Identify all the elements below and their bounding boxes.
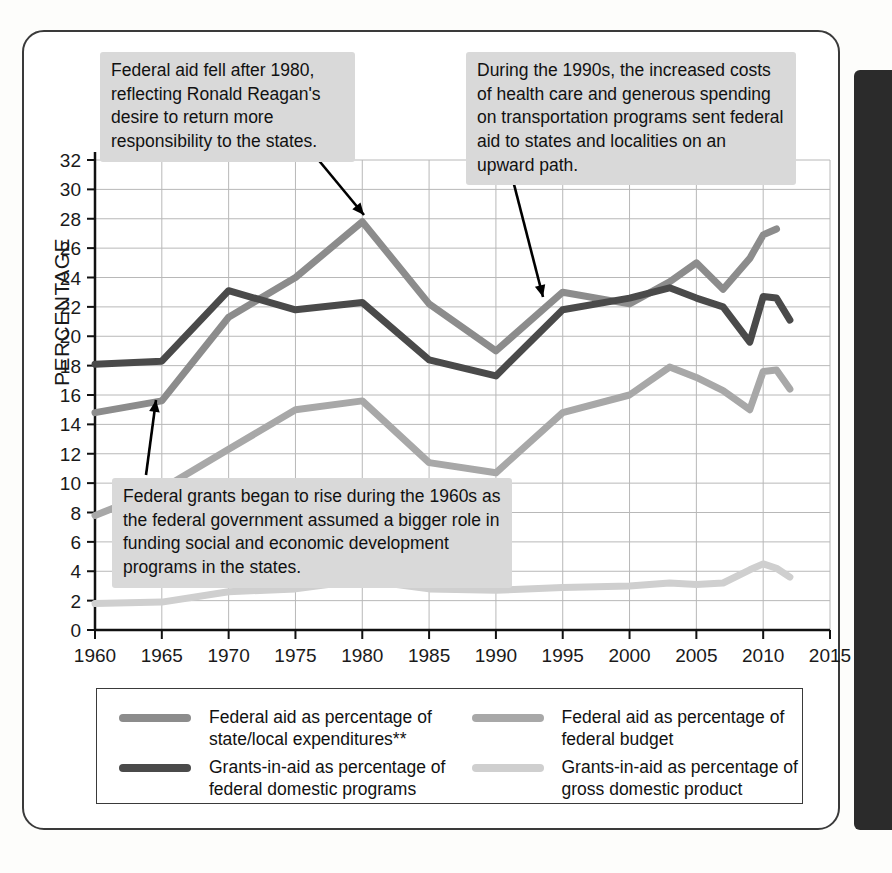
- y-axis-title: PERCENTAGE: [50, 192, 74, 432]
- x-tick-label: 1985: [408, 645, 450, 666]
- y-tick-label: 6: [70, 532, 81, 553]
- x-tick-label: 2015: [809, 645, 851, 666]
- legend-label-gdp: Grants-in-aid as percentage of gross dom…: [562, 756, 803, 801]
- annotation-nineties-note: During the 1990s, the increased costs of…: [466, 52, 796, 185]
- y-tick-label: 32: [60, 150, 81, 171]
- y-tick-label: 12: [60, 444, 81, 465]
- x-tick-label: 1995: [542, 645, 584, 666]
- chart-legend: Federal aid as percentage of state/local…: [96, 688, 803, 804]
- y-tick-label: 4: [70, 561, 81, 582]
- legend-label-state-local: Federal aid as percentage of state/local…: [209, 706, 450, 751]
- x-tick-label: 2005: [675, 645, 717, 666]
- legend-item-federal-budget: Federal aid as percentage of federal bud…: [450, 703, 803, 753]
- annotation-sixties-note: Federal grants began to rise during the …: [112, 478, 512, 588]
- y-tick-label: 8: [70, 503, 81, 524]
- x-tick-label: 1965: [141, 645, 183, 666]
- x-tick-label: 1980: [341, 645, 383, 666]
- series-line: [95, 288, 790, 376]
- legend-item-domestic-programs: Grants-in-aid as percentage of federal d…: [97, 753, 450, 803]
- legend-item-state-local: Federal aid as percentage of state/local…: [97, 703, 450, 753]
- x-tick-label: 1990: [475, 645, 517, 666]
- annotation-arrow-sixties: [146, 400, 160, 475]
- x-tick-label: 1975: [274, 645, 316, 666]
- page-background: 0246810121416182022242628303219601965197…: [0, 0, 892, 873]
- legend-label-federal-budget: Federal aid as percentage of federal bud…: [562, 706, 803, 751]
- y-tick-label: 0: [70, 620, 81, 641]
- legend-swatch-domestic-programs: [119, 764, 191, 772]
- annotation-reagan-note: Federal aid fell after 1980, reflecting …: [100, 52, 355, 162]
- x-tick-label: 1970: [207, 645, 249, 666]
- series-line: [95, 222, 777, 413]
- legend-label-domestic-programs: Grants-in-aid as percentage of federal d…: [209, 756, 450, 801]
- x-tick-label: 2000: [608, 645, 650, 666]
- legend-item-gdp: Grants-in-aid as percentage of gross dom…: [450, 753, 803, 803]
- legend-swatch-federal-budget: [472, 714, 544, 722]
- legend-swatch-gdp: [472, 764, 544, 772]
- y-tick-label: 10: [60, 473, 81, 494]
- x-tick-label: 1960: [74, 645, 116, 666]
- legend-swatch-state-local: [119, 714, 191, 722]
- y-tick-label: 2: [70, 591, 81, 612]
- x-tick-label: 2010: [742, 645, 784, 666]
